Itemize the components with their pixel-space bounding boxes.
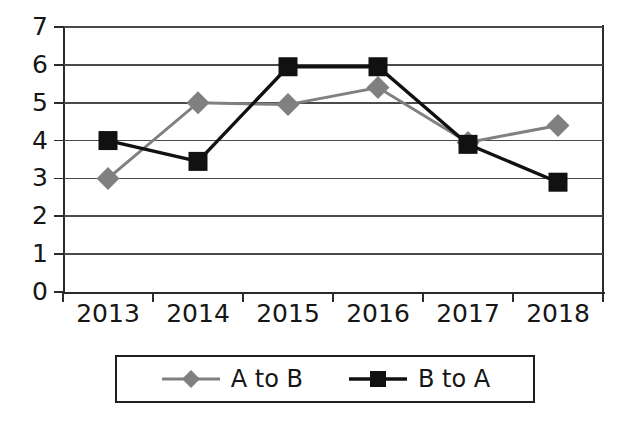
y-axis-tick [54, 26, 64, 28]
gridline [63, 64, 603, 66]
legend-label-a-to-b: A to B [231, 367, 303, 391]
y-axis-tick-label: 4 [0, 128, 48, 153]
chart-legend: A to B B to A [115, 355, 535, 403]
y-axis-tick-label: 6 [0, 52, 48, 77]
y-axis-tick [54, 102, 64, 104]
y-axis-tick-label: 7 [0, 14, 48, 39]
y-axis-tick [54, 178, 64, 180]
y-axis-tick [54, 140, 64, 142]
y-axis-tick-label: 0 [0, 279, 48, 304]
x-axis-tick-label: 2017 [423, 300, 513, 327]
x-axis-tick-label: 2015 [243, 300, 333, 327]
legend-item-a-to-b: A to B [160, 366, 303, 392]
legend-swatch-diamond-icon [160, 366, 222, 392]
x-axis-tick-label: 2014 [153, 300, 243, 327]
y-axis-tick [54, 215, 64, 217]
gridline [63, 102, 603, 104]
y-axis-tick-label: 3 [0, 165, 48, 190]
x-axis-tick-label: 2016 [333, 300, 423, 327]
gridline [63, 215, 603, 217]
x-axis-tick-label: 2013 [63, 300, 153, 327]
y-axis-tick-label: 5 [0, 90, 48, 115]
legend-label-b-to-a: B to A [418, 367, 490, 391]
gridline [63, 178, 603, 180]
x-axis-tick-label: 2018 [513, 300, 603, 327]
gridline [63, 26, 603, 28]
y-axis-tick [54, 64, 64, 66]
gridline [63, 253, 603, 255]
chart-title [0, 0, 622, 6]
legend-swatch-square-icon [347, 366, 409, 392]
legend-item-b-to-a: B to A [347, 366, 490, 392]
line-chart: 01234567 201320142015201620172018 A to B… [0, 0, 622, 426]
y-axis-tick-label: 1 [0, 241, 48, 266]
gridline [63, 140, 603, 142]
y-axis-tick-label: 2 [0, 203, 48, 228]
y-axis-tick [54, 253, 64, 255]
